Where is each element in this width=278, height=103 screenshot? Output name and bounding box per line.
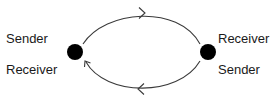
node-left <box>67 44 83 60</box>
node-right <box>200 44 216 60</box>
left-node-top-label: Sender <box>6 32 48 45</box>
diagram-canvas: Sender Receiver Receiver Sender <box>0 0 278 103</box>
arrow-left-icon <box>138 84 144 95</box>
edge-bottom-arc <box>85 61 201 95</box>
edge-top-arc <box>83 8 200 45</box>
left-node-bottom-label: Receiver <box>6 63 57 76</box>
right-node-bottom-label: Sender <box>218 63 260 76</box>
right-node-top-label: Receiver <box>218 32 269 45</box>
top-arc-path <box>83 16 200 44</box>
diagram-edges <box>0 0 278 103</box>
